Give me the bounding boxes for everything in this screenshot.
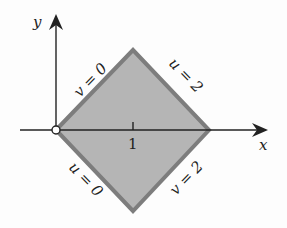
origin-open-circle-icon xyxy=(52,126,60,134)
diagram-canvas: y x 1 v = 0 u = 2 u = 0 v = 2 xyxy=(0,0,287,228)
x-axis-label: x xyxy=(259,136,268,154)
y-axis-label: y xyxy=(32,13,42,31)
x-tick-label: 1 xyxy=(128,135,138,153)
uv-region-diagram: y x 1 v = 0 u = 2 u = 0 v = 2 xyxy=(0,0,287,228)
